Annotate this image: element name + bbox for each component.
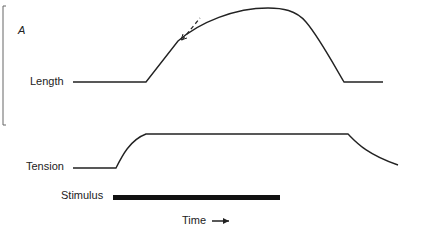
length-label: Length — [30, 75, 64, 87]
time-arrowhead — [223, 218, 229, 224]
length-trace — [73, 8, 383, 82]
tension-label: Tension — [26, 160, 64, 172]
tension-trace — [73, 134, 398, 168]
stimulus-label: Stimulus — [61, 189, 103, 201]
stimulus-bar — [113, 195, 280, 200]
panel-label: A — [18, 24, 25, 36]
time-axis-label: Time — [182, 214, 206, 226]
frame-bracket — [3, 6, 6, 125]
tangent-dashed-line — [182, 18, 200, 40]
